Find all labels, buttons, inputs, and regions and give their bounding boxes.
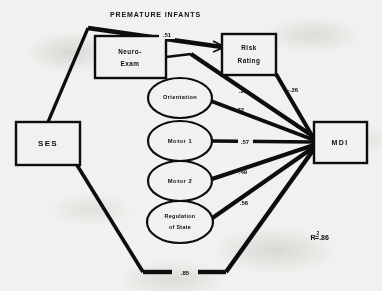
coefficient-ses-risk-rating: .51	[159, 30, 175, 39]
node-orientation[interactable]: Orientation	[148, 78, 212, 118]
coefficient-orientation-mdi-text: .32	[236, 107, 245, 113]
coefficient-ses-risk-rating-text: .51	[163, 32, 172, 38]
node-mdi[interactable]: MDI	[314, 122, 367, 163]
diagram-canvas: SES Neuro- Exam Risk Rating MDI Orientat…	[0, 0, 382, 291]
node-risk-rating-label-line1: Risk	[241, 44, 257, 51]
node-neuro-exam-label-line2: Exam	[120, 60, 139, 67]
node-motor1-label: Motor 1	[168, 138, 193, 144]
edge-orientation-mdi	[211, 101, 314, 140]
coefficient-ses-mdi-text: .85	[181, 270, 190, 276]
node-motor2-label: Motor 2	[168, 178, 192, 184]
coefficient-motor2-mdi-text: .49	[239, 169, 248, 175]
coefficient-neuro-exam-mdi-text: .28	[239, 88, 248, 94]
node-risk-rating-label-line2: Rating	[238, 57, 261, 65]
node-motor2[interactable]: Motor 2	[148, 161, 212, 201]
node-regulation-label-line2: of State	[169, 224, 191, 230]
coefficient-regulation-mdi: .56	[240, 200, 249, 206]
r-squared-annotation: R 2 =.86	[310, 230, 329, 241]
node-orientation-label: Orientation	[163, 94, 197, 100]
coefficient-ses-mdi: .85	[181, 270, 190, 276]
coefficient-risk-rating-mdi-text: -.26	[288, 87, 299, 93]
coefficient-motor1-mdi: .57	[238, 137, 253, 146]
r-squared-value: =.86	[315, 234, 329, 241]
coefficient-motor2-mdi: .49	[239, 169, 248, 175]
node-risk-rating[interactable]: Risk Rating	[222, 34, 276, 75]
figure-title: PREMATURE INFANTS	[110, 11, 201, 18]
node-ses[interactable]: SES	[16, 122, 80, 165]
coefficient-motor1-mdi-text: .57	[241, 139, 250, 145]
node-ses-label: SES	[38, 139, 58, 148]
coefficient-regulation-mdi-text: .56	[240, 200, 249, 206]
coefficient-neuro-exam-mdi: .28	[239, 88, 248, 94]
edge-motor1-mdi	[212, 141, 314, 142]
node-neuro-exam-label-line1: Neuro-	[118, 48, 142, 55]
node-regulation-of-state[interactable]: Regulation of State	[147, 201, 213, 243]
node-regulation-label-line1: Regulation	[165, 213, 196, 219]
path-diagram: SES Neuro- Exam Risk Rating MDI Orientat…	[0, 0, 382, 291]
coefficient-orientation-mdi: .32	[236, 107, 245, 113]
edge-regulation-mdi	[211, 147, 314, 219]
coefficient-risk-rating-mdi: -.26	[288, 87, 299, 93]
node-mdi-label: MDI	[331, 139, 348, 146]
node-motor1[interactable]: Motor 1	[148, 121, 212, 161]
node-neuro-exam[interactable]: Neuro- Exam	[95, 36, 166, 78]
